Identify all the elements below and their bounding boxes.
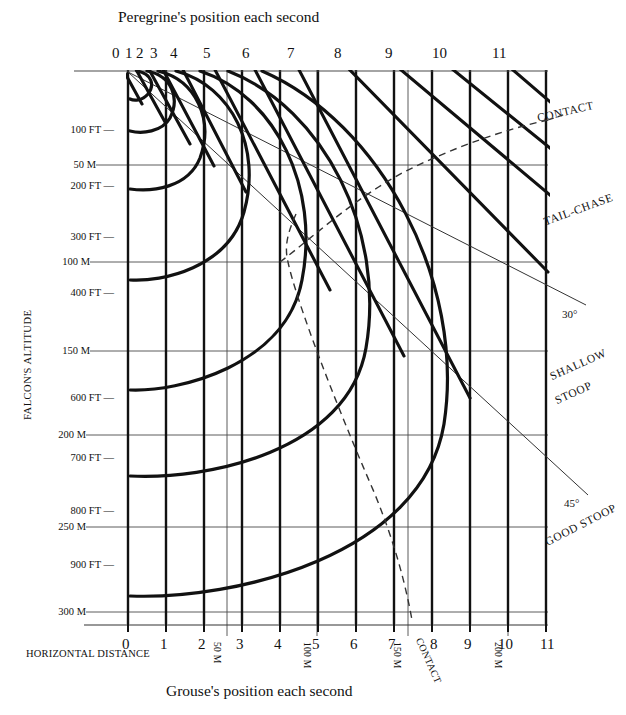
x-bottom-tick-8: 8 <box>430 636 438 653</box>
x-bottom-tick-10: 10 <box>498 636 513 653</box>
x-top-tick-0: 0 <box>112 45 120 62</box>
x-top-tick-1: 1 <box>125 45 133 62</box>
chart-figure: Peregrine's position each second Grouse'… <box>0 0 626 715</box>
x-top-tick-10: 10 <box>432 45 447 62</box>
x-bottom-tick-6: 6 <box>350 636 358 653</box>
x-top-tick-5: 5 <box>203 45 211 62</box>
descent-ray-6 <box>252 64 404 356</box>
bottom-axis-ticks <box>128 614 546 632</box>
falcon-stoop-arcs <box>130 71 447 596</box>
plot-canvas <box>0 0 626 715</box>
peregrine-descent-rays <box>120 64 562 398</box>
x-bottom-tick-9: 9 <box>464 636 472 653</box>
x-top-tick-8: 8 <box>334 45 342 62</box>
x-top-tick-4: 4 <box>170 45 178 62</box>
x-bottom-tick-5: 5 <box>312 636 320 653</box>
x-top-tick-7: 7 <box>287 45 295 62</box>
contact-label-leader <box>548 114 566 120</box>
x-top-tick-3: 3 <box>150 45 158 62</box>
descent-ray-10 <box>446 64 560 156</box>
x-bottom-tick-3: 3 <box>236 636 244 653</box>
second-lines <box>128 70 546 624</box>
x-bottom-tick-2: 2 <box>198 636 206 653</box>
x-top-tick-9: 9 <box>385 45 393 62</box>
descent-ray-7 <box>296 64 470 398</box>
x-top-tick-6: 6 <box>242 45 250 62</box>
x-bottom-tick-1: 1 <box>160 636 168 653</box>
x-top-tick-11: 11 <box>492 45 506 62</box>
x-bottom-tick-4: 4 <box>274 636 282 653</box>
x-bottom-tick-11: 11 <box>540 636 554 653</box>
x-top-tick-2: 2 <box>136 45 144 62</box>
x-bottom-tick-0: 0 <box>122 636 130 653</box>
x-bottom-tick-7: 7 <box>388 636 396 653</box>
stoop-arc-7 <box>130 71 447 596</box>
